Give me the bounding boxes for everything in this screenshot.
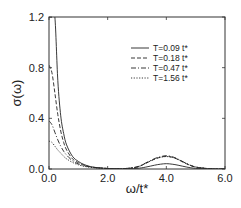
x-tick-label: 6.0 [217,172,232,184]
y-tick-label: 0.4 [29,112,44,124]
plot-frame [49,17,225,169]
legend: T=0.09 t*T=0.18 t*T=0.47 t*T=1.56 t* [131,43,188,83]
y-tick-label: 1.2 [29,11,44,23]
legend-label-2: T=0.18 t* [153,53,188,63]
y-tick-label: 0.0 [29,163,44,175]
series-line-4 [49,141,225,169]
x-axis-label: ω/t* [126,181,148,196]
series-line-2 [49,65,225,169]
legend-label-1: T=0.09 t* [153,43,188,53]
series-line-3 [49,121,225,169]
y-tick-label: 0.8 [29,62,44,74]
legend-label-3: T=0.47 t* [153,63,188,73]
x-tick-label: 4.0 [159,172,174,184]
chart: 0.02.04.06.00.00.40.81.2 ω/t* σ(ω) T=0.0… [0,0,241,208]
legend-label-4: T=1.56 t* [153,73,188,83]
y-axis-label: σ(ω) [9,80,24,107]
x-tick-label: 2.0 [100,172,115,184]
series-layer [49,12,225,169]
series-line-1 [49,12,225,169]
